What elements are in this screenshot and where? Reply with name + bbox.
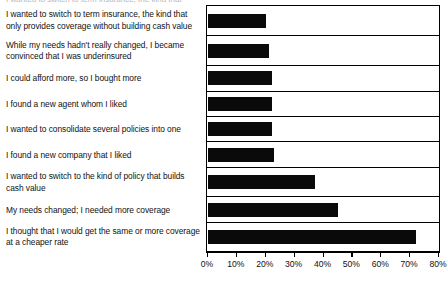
chart-row: While my needs hadn't really changed, I …	[0, 36, 440, 66]
plot-cell	[206, 66, 440, 91]
x-axis-tick-label: 60%	[372, 259, 389, 269]
x-axis-tick	[351, 252, 352, 257]
plot-cell	[206, 197, 440, 222]
bar	[208, 203, 338, 217]
x-axis-tick-label: 0%	[201, 259, 213, 269]
chart-row: I thought that I would get the same or m…	[0, 223, 440, 252]
plot-cell	[206, 5, 440, 36]
chart-row: I wanted to consolidate several policies…	[0, 117, 440, 142]
x-axis-tick	[380, 252, 381, 257]
x-axis-tick-label: 80%	[429, 259, 446, 269]
x-axis-tick	[236, 252, 237, 257]
chart-rows: I wanted to switch to term insurance, th…	[0, 5, 440, 252]
chart-title: I wanted to switch to term insurance, th…	[0, 0, 440, 4]
x-axis-tick	[294, 252, 295, 257]
x-axis-tick	[265, 252, 266, 257]
chart-row: I wanted to switch to term insurance, th…	[0, 5, 440, 36]
plot-cell	[206, 92, 440, 117]
plot-cell	[206, 142, 440, 167]
bar	[208, 44, 269, 58]
x-axis-tick	[438, 252, 439, 257]
x-axis-tick-label: 30%	[285, 259, 302, 269]
bar	[208, 230, 416, 244]
bar	[208, 122, 272, 136]
plot-cell	[206, 223, 440, 252]
category-label: My needs changed; I needed more coverage	[0, 197, 206, 222]
x-axis-tick-label: 40%	[314, 259, 331, 269]
x-axis-tick	[207, 252, 208, 257]
x-axis-tick-label: 50%	[343, 259, 360, 269]
category-label: I wanted to consolidate several policies…	[0, 117, 206, 142]
x-axis-tick	[323, 252, 324, 257]
bar	[208, 14, 266, 28]
plot-cell	[206, 36, 440, 66]
chart-row: I found a new company that I liked	[0, 142, 440, 167]
x-axis-tick-label: 10%	[227, 259, 244, 269]
x-axis-tick	[409, 252, 410, 257]
bar	[208, 175, 315, 189]
x-axis-tick-label: 20%	[256, 259, 273, 269]
bar	[208, 97, 272, 111]
category-label: I wanted to switch to term insurance, th…	[0, 5, 206, 36]
x-axis-tick-label: 70%	[401, 259, 418, 269]
x-axis: 0%10%20%30%40%50%60%70%80%	[206, 252, 440, 281]
chart-row: I could afford more, so I bought more	[0, 66, 440, 91]
chart-row: I wanted to switch to the kind of policy…	[0, 168, 440, 198]
plot-cell	[206, 168, 440, 198]
chart-row: I found a new agent whom I liked	[0, 92, 440, 117]
category-label: I wanted to switch to the kind of policy…	[0, 168, 206, 198]
category-label: I could afford more, so I bought more	[0, 66, 206, 91]
chart-row: My needs changed; I needed more coverage	[0, 197, 440, 222]
category-label: While my needs hadn't really changed, I …	[0, 36, 206, 66]
category-label: I thought that I would get the same or m…	[0, 223, 206, 252]
bar	[208, 148, 274, 162]
category-label: I found a new agent whom I liked	[0, 92, 206, 117]
category-label: I found a new company that I liked	[0, 142, 206, 167]
plot-cell	[206, 117, 440, 142]
bar	[208, 71, 272, 85]
